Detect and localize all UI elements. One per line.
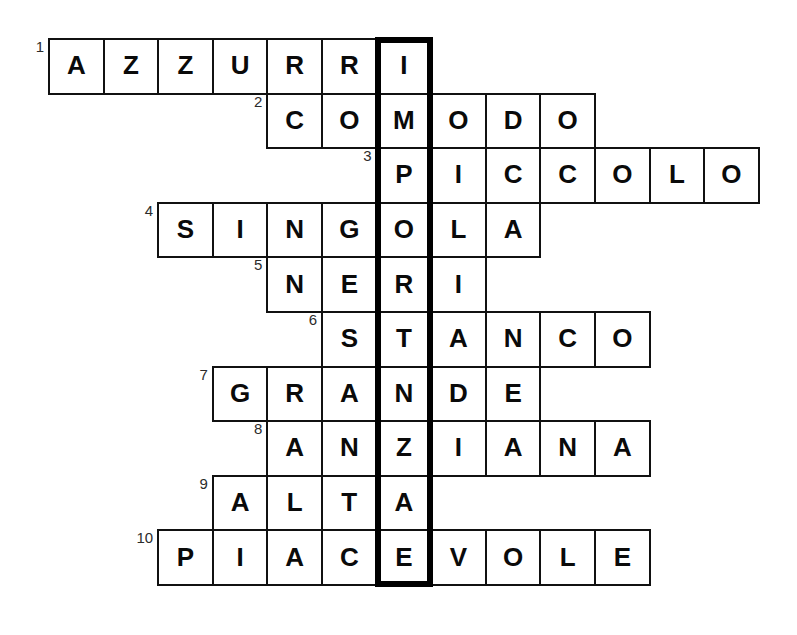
- crossword-cell[interactable]: N: [485, 311, 542, 368]
- crossword-cell[interactable]: V: [430, 529, 487, 586]
- crossword-cell[interactable]: A: [266, 420, 323, 477]
- crossword-cell[interactable]: O: [321, 93, 378, 150]
- cell-letter: C: [558, 161, 577, 187]
- cell-letter: A: [340, 380, 359, 406]
- crossword-cell[interactable]: E: [485, 366, 542, 423]
- crossword-cell[interactable]: O: [594, 311, 651, 368]
- crossword-cell[interactable]: O: [376, 202, 433, 259]
- cell-letter: R: [340, 52, 359, 78]
- crossword-cell[interactable]: G: [212, 366, 269, 423]
- crossword-cell[interactable]: D: [485, 93, 542, 150]
- crossword-cell[interactable]: O: [485, 529, 542, 586]
- cell-letter: N: [558, 434, 577, 460]
- cell-letter: S: [177, 216, 194, 242]
- crossword-cell[interactable]: I: [430, 420, 487, 477]
- crossword-cell[interactable]: N: [266, 256, 323, 313]
- cell-letter: E: [614, 544, 631, 570]
- clue-number: 2: [228, 94, 262, 109]
- crossword-cell[interactable]: A: [266, 529, 323, 586]
- cell-letter: I: [236, 216, 243, 242]
- crossword-cell[interactable]: Z: [376, 420, 433, 477]
- crossword-cell[interactable]: R: [266, 366, 323, 423]
- crossword-cell[interactable]: C: [485, 147, 542, 204]
- cell-letter: C: [558, 325, 577, 351]
- cell-letter: R: [285, 380, 304, 406]
- cell-letter: A: [395, 489, 414, 515]
- clue-number: 10: [119, 530, 153, 545]
- crossword-cell[interactable]: M: [376, 93, 433, 150]
- crossword-cell[interactable]: G: [321, 202, 378, 259]
- crossword-cell[interactable]: O: [539, 93, 596, 150]
- crossword-cell[interactable]: R: [321, 38, 378, 95]
- cell-letter: G: [339, 216, 359, 242]
- crossword-cell[interactable]: I: [212, 202, 269, 259]
- cell-letter: S: [341, 325, 358, 351]
- crossword-cell[interactable]: Z: [157, 38, 214, 95]
- crossword-cell[interactable]: E: [376, 529, 433, 586]
- crossword-cell[interactable]: N: [266, 202, 323, 259]
- crossword-cell[interactable]: N: [321, 420, 378, 477]
- crossword-cell[interactable]: L: [649, 147, 706, 204]
- cell-letter: L: [669, 161, 685, 187]
- cell-letter: O: [721, 161, 741, 187]
- crossword-cell[interactable]: R: [376, 256, 433, 313]
- cell-letter: V: [450, 544, 467, 570]
- crossword-cell[interactable]: I: [212, 529, 269, 586]
- crossword-cell[interactable]: U: [212, 38, 269, 95]
- crossword-cell[interactable]: R: [266, 38, 323, 95]
- cell-letter: N: [504, 325, 523, 351]
- crossword-cell[interactable]: T: [321, 475, 378, 532]
- crossword-cell[interactable]: P: [157, 529, 214, 586]
- crossword-cell[interactable]: A: [485, 420, 542, 477]
- cell-letter: A: [449, 325, 468, 351]
- crossword-cell[interactable]: D: [430, 366, 487, 423]
- crossword-cell[interactable]: O: [430, 93, 487, 150]
- crossword-cell[interactable]: I: [430, 256, 487, 313]
- crossword-cell[interactable]: A: [321, 366, 378, 423]
- crossword-cell[interactable]: I: [376, 38, 433, 95]
- crossword-cell[interactable]: S: [157, 202, 214, 259]
- cell-letter: P: [177, 544, 194, 570]
- cell-letter: A: [613, 434, 632, 460]
- cell-letter: N: [285, 271, 304, 297]
- crossword-cell[interactable]: N: [539, 420, 596, 477]
- cell-letter: A: [67, 52, 86, 78]
- cell-letter: E: [504, 380, 521, 406]
- crossword-cell[interactable]: N: [376, 366, 433, 423]
- crossword-cell[interactable]: C: [321, 529, 378, 586]
- crossword-cell[interactable]: T: [376, 311, 433, 368]
- cell-letter: I: [455, 161, 462, 187]
- crossword-cell[interactable]: C: [539, 311, 596, 368]
- cell-letter: A: [504, 216, 523, 242]
- crossword-cell[interactable]: L: [430, 202, 487, 259]
- crossword-cell[interactable]: O: [703, 147, 760, 204]
- cell-letter: D: [504, 107, 523, 133]
- crossword-cell[interactable]: A: [485, 202, 542, 259]
- crossword-cell[interactable]: E: [594, 529, 651, 586]
- crossword-cell[interactable]: L: [266, 475, 323, 532]
- crossword-cell[interactable]: Z: [103, 38, 160, 95]
- crossword-cell[interactable]: C: [266, 93, 323, 150]
- cell-letter: L: [560, 544, 576, 570]
- crossword-cell[interactable]: E: [321, 256, 378, 313]
- crossword-cell[interactable]: A: [48, 38, 105, 95]
- crossword-cell[interactable]: A: [594, 420, 651, 477]
- cell-letter: I: [455, 434, 462, 460]
- crossword-cell[interactable]: A: [376, 475, 433, 532]
- clue-number: 9: [174, 476, 208, 491]
- crossword-cell[interactable]: S: [321, 311, 378, 368]
- cell-letter: L: [451, 216, 467, 242]
- crossword-grid[interactable]: 1AZZURRI2COMODO3PICCOLO4SINGOLA5NERI6STA…: [0, 0, 797, 635]
- cell-letter: R: [395, 271, 414, 297]
- clue-number: 6: [283, 312, 317, 327]
- crossword-cell[interactable]: A: [212, 475, 269, 532]
- cell-letter: G: [230, 380, 250, 406]
- cell-letter: A: [504, 434, 523, 460]
- crossword-cell[interactable]: A: [430, 311, 487, 368]
- cell-letter: A: [231, 489, 250, 515]
- crossword-cell[interactable]: I: [430, 147, 487, 204]
- crossword-cell[interactable]: C: [539, 147, 596, 204]
- crossword-cell[interactable]: O: [594, 147, 651, 204]
- crossword-cell[interactable]: L: [539, 529, 596, 586]
- crossword-cell[interactable]: P: [376, 147, 433, 204]
